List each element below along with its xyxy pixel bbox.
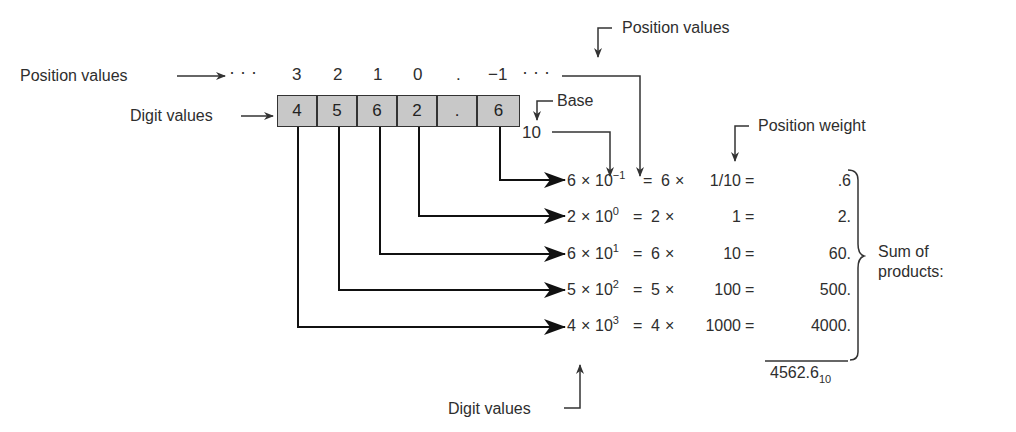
position-3: 3 bbox=[292, 66, 301, 84]
digit-cell-2: 2 bbox=[397, 95, 437, 127]
base-value: 10 bbox=[522, 124, 541, 142]
base-label: Base bbox=[557, 92, 593, 110]
position-values-label: Position values bbox=[20, 67, 128, 85]
position-weight-label: Position weight bbox=[758, 117, 866, 135]
digit-values-bottom-label: Digit values bbox=[448, 400, 531, 418]
digit-cell-5: 5 bbox=[317, 95, 357, 127]
digit-values-label: Digit values bbox=[130, 107, 213, 125]
product: 60. bbox=[791, 245, 851, 263]
product: 500. bbox=[791, 281, 851, 299]
position-2: 2 bbox=[333, 66, 342, 84]
digit-cell-6: 6 bbox=[357, 95, 397, 127]
product: 2. bbox=[791, 208, 851, 226]
position-point: . bbox=[456, 66, 461, 84]
product: .6 bbox=[791, 172, 851, 190]
diagram-lines bbox=[0, 0, 1016, 432]
products-label: products: bbox=[878, 263, 944, 281]
sum-result: 4562.610 bbox=[770, 364, 831, 382]
sum-of-label: Sum of bbox=[878, 243, 929, 261]
digit-cell-point: . bbox=[437, 95, 477, 127]
position-0: 0 bbox=[413, 66, 422, 84]
trailing-ellipsis: · · · bbox=[522, 63, 550, 81]
product: 4000. bbox=[791, 317, 851, 335]
position-neg1: −1 bbox=[488, 66, 507, 84]
position-1: 1 bbox=[373, 66, 382, 84]
leading-ellipsis: · · · bbox=[229, 63, 257, 81]
position-values-top-label: Position values bbox=[622, 19, 730, 37]
digit-cell-4: 4 bbox=[277, 95, 317, 127]
digit-cell-6-fraction: 6 bbox=[477, 95, 520, 127]
